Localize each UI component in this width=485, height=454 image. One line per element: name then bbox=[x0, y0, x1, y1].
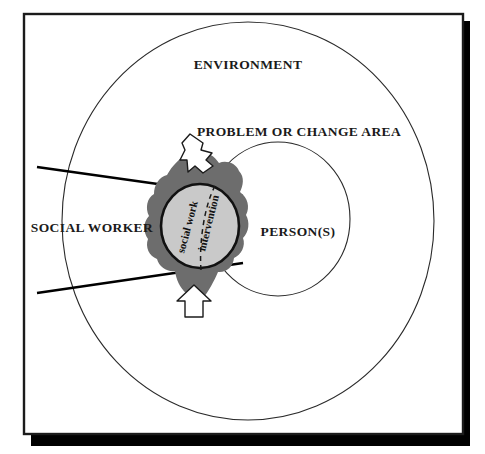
label-persons: PERSON(S) bbox=[261, 224, 336, 239]
diagram-root: ENVIRONMENT PROBLEM OR CHANGE AREA SOCIA… bbox=[0, 0, 485, 454]
diagram-canvas: ENVIRONMENT PROBLEM OR CHANGE AREA SOCIA… bbox=[0, 0, 485, 454]
label-problem-or-change-area: PROBLEM OR CHANGE AREA bbox=[197, 124, 401, 139]
label-environment: ENVIRONMENT bbox=[194, 57, 303, 72]
intervention-circle bbox=[161, 184, 239, 268]
label-social-worker: SOCIAL WORKER bbox=[31, 220, 153, 235]
